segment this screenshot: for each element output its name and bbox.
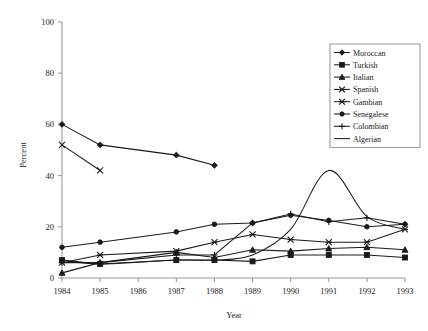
y-tick-label: 20 <box>46 222 55 232</box>
legend-box <box>330 44 420 147</box>
data-point-marker <box>364 252 369 257</box>
legend-label: Gambian <box>353 98 382 107</box>
legend-label: Senegalese <box>353 110 389 119</box>
legend-label: Colombian <box>353 122 389 131</box>
data-point-marker <box>250 259 255 264</box>
data-point-marker <box>98 240 103 245</box>
x-tick-label: 1989 <box>244 286 261 296</box>
x-tick-label: 1993 <box>397 286 414 296</box>
data-point-marker <box>326 252 331 257</box>
x-tick-label: 1986 <box>130 286 147 296</box>
y-tick-label: 60 <box>46 119 55 129</box>
circle-marker-icon <box>340 112 344 116</box>
data-point-marker <box>403 255 408 260</box>
legend-label: Italian <box>353 73 373 82</box>
x-tick-label: 1987 <box>168 286 185 296</box>
legend-label: Spanish <box>353 85 378 94</box>
data-point-marker <box>60 245 65 250</box>
x-axis-title: Year <box>226 310 242 320</box>
x-tick-label: 1990 <box>282 286 299 296</box>
y-tick-label: 100 <box>41 17 54 27</box>
chart-canvas: 020406080100 198419851986198719881989199… <box>0 0 428 331</box>
data-point-marker <box>174 230 179 235</box>
legend-label: Algerian <box>353 135 381 144</box>
y-tick-label: 0 <box>50 273 54 283</box>
y-axis-title: Percent <box>18 142 28 168</box>
chart-legend[interactable]: MoroccanTurkishItalianSpanishGambianSene… <box>330 44 420 147</box>
square-marker-icon <box>340 62 345 67</box>
legend-label: Moroccan <box>353 49 385 58</box>
data-point-marker <box>212 222 217 227</box>
x-tick-label: 1985 <box>92 286 109 296</box>
y-tick-label: 80 <box>46 68 55 78</box>
x-tick-label: 1992 <box>358 286 375 296</box>
line-chart: 020406080100 198419851986198719881989199… <box>0 0 428 331</box>
legend-label: Turkish <box>353 61 378 70</box>
y-tick-label: 40 <box>46 171 55 181</box>
x-tick-label: 1988 <box>206 286 223 296</box>
x-tick-label: 1984 <box>54 286 72 296</box>
data-point-marker <box>365 225 370 230</box>
x-tick-label: 1991 <box>320 286 337 296</box>
